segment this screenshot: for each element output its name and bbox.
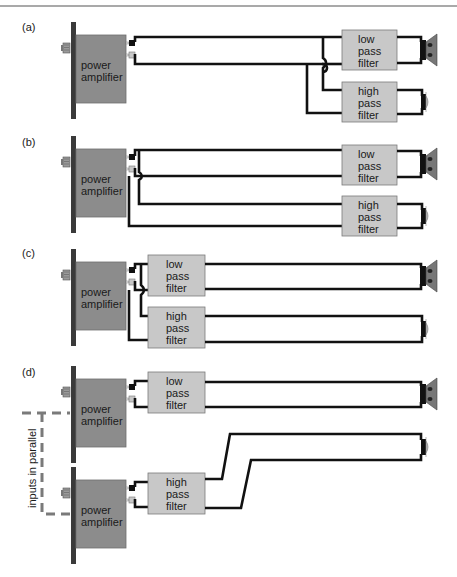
filter-text: filter bbox=[358, 109, 379, 121]
panel-label: (b) bbox=[22, 136, 35, 148]
tweeter-speaker-icon bbox=[421, 206, 428, 226]
filter-text: filter bbox=[166, 282, 187, 294]
panel-c: (c) power amplifier low pass filter high… bbox=[22, 247, 437, 348]
wire bbox=[397, 37, 421, 42]
amp-label-line1: power bbox=[81, 504, 111, 516]
woofer-speaker-icon bbox=[420, 260, 437, 292]
parallel-input-dash bbox=[42, 413, 70, 514]
woofer-speaker-icon bbox=[420, 34, 437, 66]
amp-label-line1: power bbox=[81, 403, 111, 415]
filter-text: low bbox=[166, 258, 183, 270]
wire bbox=[205, 336, 422, 342]
wire bbox=[135, 150, 342, 156]
wire bbox=[397, 90, 422, 96]
panel-label: (c) bbox=[22, 247, 35, 259]
filter-text: pass bbox=[358, 45, 382, 57]
filter-text: high bbox=[166, 476, 187, 488]
filter-text: filter bbox=[166, 399, 187, 411]
wire bbox=[205, 454, 421, 508]
amp-label-line1: power bbox=[81, 173, 111, 185]
wire bbox=[135, 37, 342, 42]
wire bbox=[205, 402, 421, 407]
filter-text: filter bbox=[358, 223, 379, 235]
wire bbox=[205, 316, 422, 322]
tweeter-speaker-icon bbox=[421, 319, 428, 339]
filter-text: high bbox=[358, 85, 379, 97]
wire bbox=[397, 108, 422, 114]
wire bbox=[135, 54, 327, 72]
wire bbox=[135, 398, 148, 407]
tweeter-speaker-icon bbox=[421, 437, 428, 457]
panel-label: (d) bbox=[22, 366, 35, 378]
amp-label-line2: amplifier bbox=[81, 415, 123, 427]
wire bbox=[135, 482, 148, 487]
filter-text: low bbox=[358, 148, 375, 160]
wire bbox=[397, 58, 421, 63]
amp-label-line2: amplifier bbox=[81, 298, 123, 310]
panel-label: (a) bbox=[22, 21, 35, 33]
filter-text: pass bbox=[358, 97, 382, 109]
panel-b: (b) power amplifier low pass filter high… bbox=[22, 136, 437, 236]
filter-text: filter bbox=[358, 172, 379, 184]
amp-label-line1: power bbox=[81, 59, 111, 71]
filter-text: pass bbox=[166, 387, 190, 399]
panel-a: (a) power amplifier low pass filter high… bbox=[22, 21, 437, 122]
filter-text: pass bbox=[166, 488, 190, 500]
amp-label-line2: amplifier bbox=[81, 516, 123, 528]
tweeter-speaker-icon bbox=[421, 92, 428, 112]
filter-text: pass bbox=[358, 160, 382, 172]
inputs-in-parallel-label: inputs in parallel bbox=[26, 429, 38, 509]
filter-text: high bbox=[166, 310, 187, 322]
filter-text: high bbox=[358, 199, 379, 211]
amp-label-line2: amplifier bbox=[81, 71, 123, 83]
wire bbox=[135, 381, 148, 386]
filter-text: pass bbox=[166, 270, 190, 282]
wire bbox=[205, 264, 421, 268]
filter-text: filter bbox=[166, 334, 187, 346]
wire bbox=[205, 382, 421, 386]
panel-d: (d) power amplifier power amplifier low … bbox=[22, 366, 437, 564]
filter-text: filter bbox=[166, 500, 187, 512]
amp-label-line1: power bbox=[81, 286, 111, 298]
wire bbox=[397, 204, 422, 210]
woofer-speaker-icon bbox=[420, 378, 437, 410]
filter-text: low bbox=[358, 33, 375, 45]
filter-text: low bbox=[166, 375, 183, 387]
wire bbox=[135, 168, 342, 176]
filter-text: filter bbox=[358, 57, 379, 69]
wire bbox=[205, 434, 421, 479]
wire bbox=[397, 151, 421, 156]
wire bbox=[397, 222, 422, 228]
wire bbox=[205, 284, 421, 289]
wire bbox=[135, 499, 148, 507]
filter-text: pass bbox=[166, 322, 190, 334]
wire bbox=[397, 172, 421, 177]
filter-text: pass bbox=[358, 211, 382, 223]
crossover-diagram: (a) power amplifier low pass filter high… bbox=[0, 0, 457, 577]
wire bbox=[129, 176, 342, 226]
woofer-speaker-icon bbox=[420, 148, 437, 180]
amp-label-line2: amplifier bbox=[81, 185, 123, 197]
